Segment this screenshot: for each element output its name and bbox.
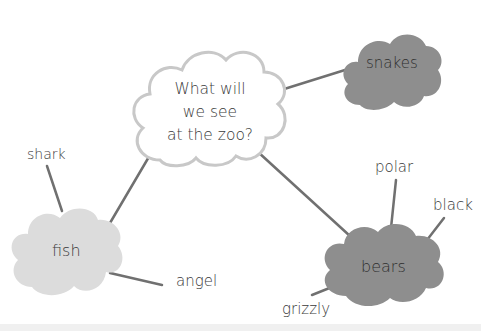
connector-bears-black [427, 218, 444, 240]
black-label: black [433, 198, 473, 213]
snakes-cloud [343, 34, 441, 109]
connector-center-snakes [281, 70, 345, 90]
connector-center-fish [110, 155, 150, 223]
snakes-label: snakes [366, 56, 418, 71]
fish-label: fish [52, 243, 81, 259]
connector-fish-angel [110, 273, 162, 285]
grizzly-label: grizzly [282, 302, 330, 317]
bottom-band [0, 324, 481, 331]
shark-label: shark [27, 147, 66, 161]
central-line-3: at the zoo? [150, 124, 270, 147]
connector-center-bears [258, 152, 350, 236]
central-question: What will we see at the zoo? [150, 78, 270, 147]
central-line-2: we see [150, 101, 270, 124]
connector-bears-polar [391, 180, 396, 228]
polar-label: polar [375, 160, 413, 175]
bears-label: bears [361, 259, 406, 275]
connector-fish-shark [47, 166, 62, 211]
angel-label: angel [176, 274, 217, 289]
central-line-1: What will [150, 78, 270, 101]
